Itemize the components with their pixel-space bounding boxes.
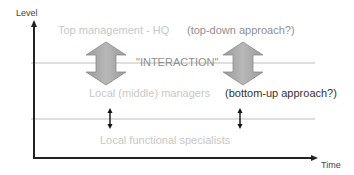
y-axis-arrowhead-icon [31,20,37,27]
x-axis [33,155,318,161]
bottom-up-annotation: (bottom-up approach?) [225,88,337,99]
y-axis-label: Level [16,9,38,18]
x-axis-arrowhead-icon [311,155,318,161]
level-middle-label: Local (middle) managers [89,88,210,99]
interaction-label: "INTERACTION" [136,57,218,68]
level-bottom-label: Local functional specialists [100,135,230,146]
top-down-annotation: (top-down approach?) [187,25,295,36]
y-axis [31,20,37,158]
x-axis-label: Time [321,161,341,170]
level-top-label: Top management - HQ [58,25,169,36]
